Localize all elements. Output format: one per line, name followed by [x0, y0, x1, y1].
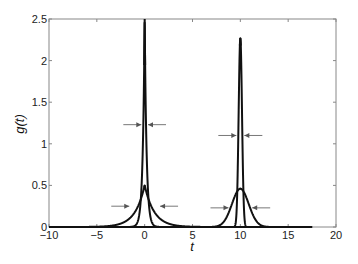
curve-peak-narrow-gaussian-t10 — [240, 38, 241, 45]
y-tick-label: 2 — [41, 55, 47, 67]
plot-area — [49, 19, 336, 227]
x-axis-label: t — [190, 239, 195, 254]
y-tick-label: 1 — [41, 138, 47, 150]
x-tick-label: 0 — [142, 229, 148, 241]
x-tick-label: 20 — [330, 229, 342, 241]
curve-peak-broad-exponential-t0 — [144, 185, 145, 187]
y-tick-label: 0 — [41, 221, 47, 233]
y-tick-label: 1.5 — [32, 96, 47, 108]
y-tick-label: 2.5 — [32, 13, 47, 25]
curve-peak-narrow-exponential-t0 — [144, 19, 145, 65]
x-tick-label: −5 — [91, 229, 104, 241]
x-tick-label: 10 — [234, 229, 246, 241]
chart: −10−50510152000.511.522.5 t g(t) — [0, 0, 358, 264]
y-axis-label: g(t) — [12, 114, 27, 134]
x-tick-label: 15 — [282, 229, 294, 241]
y-tick-label: 0.5 — [32, 179, 47, 191]
